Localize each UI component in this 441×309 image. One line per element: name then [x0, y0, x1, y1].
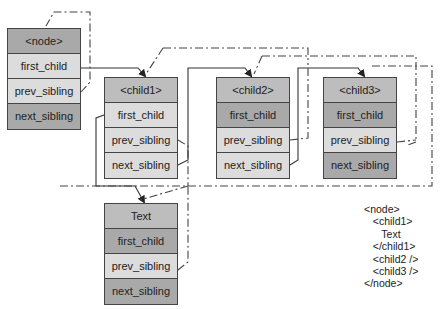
- text-next-sibling: next_sibling: [105, 279, 177, 304]
- node-title: <node>: [8, 29, 80, 54]
- child2-title: <child2>: [217, 78, 289, 103]
- xml-listing: <node> <child1> Text </child1> <child2 /…: [364, 203, 418, 290]
- child2-next-sibling: next_sibling: [217, 153, 289, 178]
- child2-prev-sibling: prev_sibling: [217, 128, 289, 153]
- text-box: Text first_child prev_sibling next_sibli…: [104, 203, 178, 305]
- child2-first-child: first_child: [217, 103, 289, 128]
- node-next-sibling: next_sibling: [8, 104, 80, 129]
- xml-line: </child1>: [364, 240, 418, 252]
- child1-box: <child1> first_child prev_sibling next_s…: [104, 77, 178, 179]
- xml-line: <child3 />: [364, 265, 418, 277]
- node-prev-sibling: prev_sibling: [8, 79, 80, 104]
- child1-title: <child1>: [105, 78, 177, 103]
- node-box: <node> first_child prev_sibling next_sib…: [7, 28, 81, 130]
- child3-first-child: first_child: [324, 103, 396, 128]
- xml-line: Text: [364, 228, 418, 240]
- child3-next-sibling: next_sibling: [324, 153, 396, 178]
- xml-line: <child1>: [364, 215, 418, 227]
- node-first-child: first_child: [8, 54, 80, 79]
- xml-line: <child2 />: [364, 253, 418, 265]
- xml-line: </node>: [364, 277, 418, 289]
- child1-next-sibling: next_sibling: [105, 153, 177, 178]
- child1-first-child: first_child: [105, 103, 177, 128]
- child3-box: <child3> first_child prev_sibling next_s…: [323, 77, 397, 179]
- child2-box: <child2> first_child prev_sibling next_s…: [216, 77, 290, 179]
- text-prev-sibling: prev_sibling: [105, 254, 177, 279]
- text-title: Text: [105, 204, 177, 229]
- child1-prev-sibling: prev_sibling: [105, 128, 177, 153]
- child3-prev-sibling: prev_sibling: [324, 128, 396, 153]
- text-first-child: first_child: [105, 229, 177, 254]
- xml-line: <node>: [364, 203, 418, 215]
- child3-title: <child3>: [324, 78, 396, 103]
